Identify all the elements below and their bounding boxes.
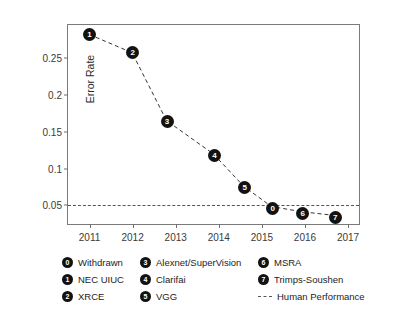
- data-point-0: 0: [266, 202, 279, 215]
- x-tick-mark: [219, 224, 220, 228]
- data-point-4: 4: [208, 149, 221, 162]
- x-tick-mark: [133, 224, 134, 228]
- legend-marker-1-icon: 1: [62, 274, 73, 285]
- x-tick-mark: [262, 224, 263, 228]
- legend-marker-6-icon: 6: [258, 257, 269, 268]
- y-tick-label: 0.05: [43, 200, 62, 211]
- legend-label: Withdrawn: [78, 257, 123, 268]
- human-performance-line: [68, 205, 359, 206]
- legend-label: Clarifai: [156, 274, 186, 285]
- legend-item-human-performance: Human Performance: [258, 289, 392, 303]
- legend-label: VGG: [156, 291, 177, 302]
- legend-marker-5-icon: 5: [140, 291, 151, 302]
- legend-marker-4-icon: 4: [140, 274, 151, 285]
- y-tick-label: 0.2: [48, 89, 62, 100]
- legend-label: NEC UIUC: [78, 274, 124, 285]
- legend-item-trimps-soushen: 7Trimps-Soushen: [258, 272, 392, 286]
- x-tick-mark: [305, 224, 306, 228]
- x-tick-mark: [90, 224, 91, 228]
- legend-item-msra: 6MSRA: [258, 255, 392, 269]
- legend-item-clarifai: 4Clarifai: [140, 272, 258, 286]
- data-point-7: 7: [329, 211, 342, 224]
- x-tick-label: 2012: [122, 232, 144, 243]
- chart-page: Error Rate 0.250.20.150.10.05 2011201220…: [0, 0, 394, 316]
- legend-marker-2-icon: 2: [62, 291, 73, 302]
- data-point-3: 3: [161, 115, 174, 128]
- legend-label: Trimps-Soushen: [274, 274, 343, 285]
- legend-marker-7-icon: 7: [258, 274, 269, 285]
- series-line: [68, 25, 359, 224]
- x-tick-label: 2016: [294, 232, 316, 243]
- dashed-line-icon: [258, 296, 272, 297]
- x-tick-label: 2013: [165, 232, 187, 243]
- y-tick-label: 0.15: [43, 126, 62, 137]
- plot-area: Error Rate 0.250.20.150.10.05 2011201220…: [67, 24, 360, 225]
- x-tick-label: 2017: [337, 232, 359, 243]
- y-tick-label: 0.1: [48, 163, 62, 174]
- legend: 0Withdrawn3Alexnet/SuperVision6MSRA1NEC …: [62, 255, 392, 303]
- x-tick-label: 2011: [79, 232, 101, 243]
- legend-item-alexnet-supervision: 3Alexnet/SuperVision: [140, 255, 258, 269]
- y-tick-label: 0.25: [43, 53, 62, 64]
- x-tick-mark: [176, 224, 177, 228]
- x-tick-mark: [348, 224, 349, 228]
- x-tick-label: 2014: [208, 232, 230, 243]
- legend-label: Human Performance: [277, 291, 365, 302]
- data-point-1: 1: [83, 28, 96, 41]
- legend-marker-3-icon: 3: [140, 257, 151, 268]
- legend-item-vgg: 5VGG: [140, 289, 258, 303]
- legend-item-withdrawn: 0Withdrawn: [62, 255, 140, 269]
- legend-marker-0-icon: 0: [62, 257, 73, 268]
- x-tick-label: 2015: [251, 232, 273, 243]
- legend-label: MSRA: [274, 257, 301, 268]
- legend-label: Alexnet/SuperVision: [156, 257, 241, 268]
- legend-item-nec-uiuc: 1NEC UIUC: [62, 272, 140, 286]
- legend-item-xrce: 2XRCE: [62, 289, 140, 303]
- legend-label: XRCE: [78, 291, 104, 302]
